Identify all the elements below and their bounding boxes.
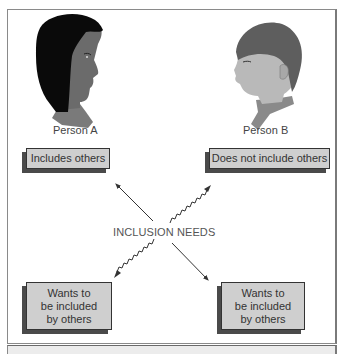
box-line: by others (240, 313, 285, 326)
bottom-left-wants-included-box: Wants to be included by others (26, 282, 112, 330)
box-line: be included (235, 300, 291, 313)
box-line: by others (46, 313, 91, 326)
inclusion-needs-label: INCLUSION NEEDS (113, 226, 215, 238)
arrow-to-includes-others (116, 184, 153, 221)
bottom-right-wants-included-box: Wants to be included by others (221, 282, 305, 330)
does-not-include-others-text: Does not include others (212, 152, 328, 165)
wavy-arrow-to-does-not-include (170, 185, 211, 223)
person-a-illustration (36, 14, 103, 128)
includes-others-text: Includes others (31, 152, 106, 165)
person-a-label: Person A (53, 124, 98, 136)
does-not-include-others-box: Does not include others (209, 148, 330, 169)
wavy-arrow-to-bottom-left (114, 239, 154, 278)
includes-others-box: Includes others (26, 148, 110, 169)
person-b-illustration (234, 22, 302, 130)
person-b-label: Person B (243, 124, 288, 136)
arrow-to-bottom-right (172, 243, 208, 280)
box-line: Wants to (242, 287, 285, 300)
box-line: Wants to (48, 287, 91, 300)
box-line: be included (41, 300, 97, 313)
